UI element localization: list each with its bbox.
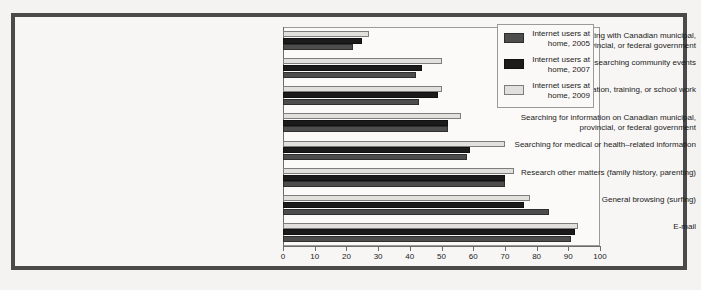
- x-tick-label: 40: [398, 252, 422, 262]
- x-tick-label: 90: [556, 252, 580, 262]
- x-tick-label: 100: [588, 252, 612, 262]
- figure-container: 0102030405060708090100 Communicating wit…: [0, 0, 701, 290]
- x-tick-mark: [442, 247, 443, 251]
- x-tick-label: 70: [493, 252, 517, 262]
- bar-s2009: [283, 168, 514, 174]
- x-tick-mark: [283, 247, 284, 251]
- bar-s2009: [283, 113, 461, 119]
- x-tick-mark: [537, 247, 538, 251]
- bar-s2007: [283, 147, 470, 153]
- legend-item: Internet users at home, 2009: [498, 82, 595, 106]
- legend-label: Internet users at home, 2009: [526, 81, 590, 101]
- bar-s2009: [283, 58, 442, 64]
- x-tick-label: 10: [303, 252, 327, 262]
- x-tick-label: 60: [461, 252, 485, 262]
- bar-s2009: [283, 195, 530, 201]
- x-tick-mark: [410, 247, 411, 251]
- legend-label: Internet users at home, 2005: [526, 29, 590, 49]
- bar-s2005: [283, 236, 571, 242]
- bar-s2007: [283, 65, 422, 71]
- bar-s2005: [283, 72, 416, 78]
- legend-swatch-s2007: [504, 59, 524, 69]
- x-tick-mark: [315, 247, 316, 251]
- bar-s2005: [283, 181, 505, 187]
- legend: Internet users at home, 2005Internet use…: [497, 24, 594, 108]
- bar-s2009: [283, 31, 369, 37]
- legend-swatch-s2005: [504, 33, 524, 43]
- legend-label: Internet users at home, 2007: [526, 55, 590, 75]
- bar-s2005: [283, 44, 353, 50]
- bar-s2007: [283, 202, 524, 208]
- bar-s2005: [283, 154, 467, 160]
- x-tick-mark: [378, 247, 379, 251]
- bar-s2005: [283, 209, 549, 215]
- bar-s2009: [283, 141, 505, 147]
- bar-s2005: [283, 126, 448, 132]
- bar-s2007: [283, 92, 438, 98]
- x-tick-mark: [568, 247, 569, 251]
- x-tick-label: 20: [334, 252, 358, 262]
- x-tick-label: 80: [525, 252, 549, 262]
- x-tick-mark: [600, 247, 601, 251]
- category-label: Searching for information on Canadian mu…: [433, 113, 701, 133]
- legend-swatch-s2009: [504, 85, 524, 95]
- bar-s2007: [283, 229, 575, 235]
- x-tick-mark: [346, 247, 347, 251]
- x-tick-mark: [505, 247, 506, 251]
- legend-item: Internet users at home, 2007: [498, 56, 595, 80]
- x-tick-label: 30: [366, 252, 390, 262]
- x-tick-label: 50: [430, 252, 454, 262]
- bar-s2007: [283, 175, 505, 181]
- legend-item: Internet users at home, 2005: [498, 30, 595, 54]
- x-tick-label: 0: [271, 252, 295, 262]
- bar-s2009: [283, 86, 442, 92]
- x-tick-mark: [473, 247, 474, 251]
- bar-s2009: [283, 223, 578, 229]
- bar-s2007: [283, 38, 362, 44]
- bar-s2007: [283, 120, 448, 126]
- bar-s2005: [283, 99, 419, 105]
